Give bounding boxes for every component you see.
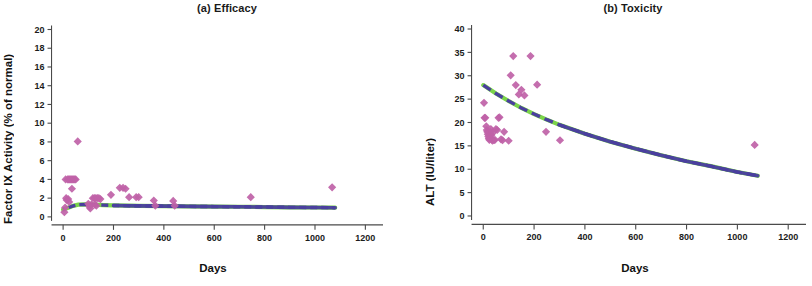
data-point [506,138,512,144]
data-point [752,142,758,148]
data-point [75,138,81,144]
svg-text:1200: 1200 [778,232,798,242]
panel-a-plot: 02468101214161820020040060080010001200 [0,0,406,286]
svg-text:10: 10 [455,164,465,174]
svg-text:10: 10 [35,118,45,128]
svg-text:20: 20 [35,25,45,35]
svg-text:0: 0 [460,211,465,221]
svg-text:200: 200 [527,232,542,242]
data-point [521,92,527,98]
figure-container: (a) Efficacy Factor IX Activity (% of no… [0,0,812,286]
data-point [557,137,563,143]
svg-text:18: 18 [35,43,45,53]
svg-text:25: 25 [455,94,465,104]
svg-text:15: 15 [455,141,465,151]
svg-text:12: 12 [35,100,45,110]
panel-efficacy: (a) Efficacy Factor IX Activity (% of no… [0,0,406,286]
svg-text:600: 600 [207,233,222,243]
svg-text:5: 5 [460,188,465,198]
data-point [527,53,533,59]
data-point [69,186,75,192]
svg-text:400: 400 [577,232,592,242]
data-point [501,129,507,135]
svg-text:2: 2 [40,193,45,203]
data-point [513,82,519,88]
data-point [510,53,516,59]
panel-b-plot: 0510152025303540020040060080010001200 [406,0,812,286]
data-point [534,82,540,88]
svg-text:600: 600 [628,232,643,242]
data-point [248,194,254,200]
data-point [481,100,487,106]
svg-text:20: 20 [455,118,465,128]
svg-text:30: 30 [455,71,465,81]
data-point [543,129,549,135]
svg-text:1200: 1200 [355,233,375,243]
svg-text:16: 16 [35,62,45,72]
svg-text:0: 0 [481,232,486,242]
svg-text:6: 6 [40,156,45,166]
svg-text:800: 800 [679,232,694,242]
svg-text:35: 35 [455,48,465,58]
svg-text:8: 8 [40,137,45,147]
svg-text:1000: 1000 [305,233,325,243]
svg-text:4: 4 [40,175,45,185]
data-point [329,184,335,190]
data-point [126,194,132,200]
svg-text:200: 200 [106,233,121,243]
data-point [108,192,114,198]
svg-text:1000: 1000 [727,232,747,242]
svg-text:14: 14 [35,81,45,91]
svg-text:0: 0 [40,212,45,222]
data-point [508,72,514,78]
panel-toxicity: (b) Toxicity ALT (IU/liter) Days 0510152… [406,0,812,286]
svg-text:0: 0 [61,233,66,243]
svg-text:800: 800 [257,233,272,243]
svg-text:40: 40 [455,24,465,34]
svg-text:400: 400 [156,233,171,243]
